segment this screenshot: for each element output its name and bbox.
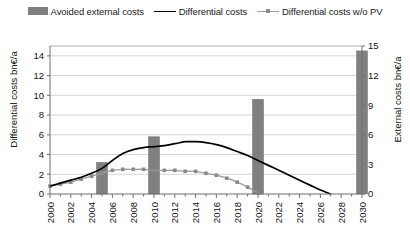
y-axis-left-tick-label: 4 <box>39 149 44 160</box>
plot-wrapper: Differential costs bn€/a External costs … <box>0 22 410 246</box>
y-axis-right-tick-label: 12 <box>368 70 379 81</box>
x-axis-tick-label: 2010 <box>149 202 160 223</box>
x-axis-tick-label: 2028 <box>336 202 347 223</box>
legend-item-differential-costs-wo-pv: Differential costs w/o PV <box>257 6 382 17</box>
marker-line-swatch-icon <box>257 7 279 16</box>
marker-point <box>194 170 198 174</box>
y-axis-left-tick-label: 6 <box>39 129 44 140</box>
marker-point <box>183 170 187 174</box>
marker-point <box>204 171 208 175</box>
x-axis-tick-label: 2022 <box>273 202 284 223</box>
chart-legend: Avoided external costs Differential cost… <box>0 0 410 22</box>
x-axis-tick-label: 2014 <box>190 202 201 223</box>
y-axis-left-tick-label: 0 <box>39 188 44 199</box>
y-axis-right-tick-label: 15 <box>368 40 379 51</box>
y-axis-right-tick-label: 0 <box>368 188 373 199</box>
legend-item-avoided-external-costs: Avoided external costs <box>28 6 144 17</box>
marker-point <box>111 169 115 173</box>
bar-2005 <box>97 162 108 194</box>
legend-label-differential-costs-wo-pv: Differential costs w/o PV <box>282 6 382 17</box>
marker-point <box>142 168 146 172</box>
y-axis-left-tick-label: 14 <box>33 50 44 61</box>
x-axis-tick-label: 2018 <box>232 202 243 223</box>
marker-point <box>90 174 94 178</box>
x-axis-tick-label: 2020 <box>253 202 264 223</box>
marker-point <box>215 173 219 177</box>
y-axis-right-tick-label: 9 <box>368 100 373 111</box>
y-axis-left-tick-label: 2 <box>39 169 44 180</box>
y-axis-right-tick-label: 6 <box>368 129 373 140</box>
legend-label-differential-costs: Differential costs <box>179 6 247 17</box>
x-axis-tick-label: 2002 <box>65 202 76 223</box>
x-axis-tick-label: 2026 <box>315 202 326 223</box>
y-axis-left-tick-label: 12 <box>33 70 44 81</box>
marker-point <box>131 168 135 172</box>
legend-item-differential-costs: Differential costs <box>154 6 247 17</box>
series-line-differential-costs <box>50 142 331 194</box>
y-axis-left-tick-label: 8 <box>39 109 44 120</box>
marker-point <box>173 169 177 173</box>
legend-label-avoided-external-costs: Avoided external costs <box>51 6 144 17</box>
marker-point <box>152 169 156 173</box>
y-axis-right-tick-label: 3 <box>368 159 373 170</box>
marker-point <box>100 171 104 175</box>
x-axis-tick-label: 2030 <box>357 202 368 223</box>
marker-point <box>246 185 250 189</box>
x-axis-tick-label: 2008 <box>128 202 139 223</box>
bar-swatch-icon <box>28 7 48 15</box>
chart-svg: 0246810121403691215200020022004200620082… <box>0 22 410 246</box>
x-axis-tick-label: 2012 <box>169 202 180 223</box>
solid-line-swatch-icon <box>154 7 176 16</box>
chart-container: Avoided external costs Differential cost… <box>0 0 410 246</box>
marker-point <box>225 176 229 180</box>
marker-point <box>235 180 239 184</box>
bar-2010 <box>149 137 160 194</box>
marker-point <box>163 169 167 173</box>
x-axis-tick-label: 2024 <box>294 202 305 223</box>
bar-2020 <box>253 99 264 194</box>
marker-point <box>121 168 125 172</box>
x-axis-tick-label: 2000 <box>45 202 56 223</box>
x-axis-tick-label: 2016 <box>211 202 222 223</box>
y-axis-left-tick-label: 10 <box>33 90 44 101</box>
x-axis-tick-label: 2006 <box>107 202 118 223</box>
x-axis-tick-label: 2004 <box>86 202 97 223</box>
